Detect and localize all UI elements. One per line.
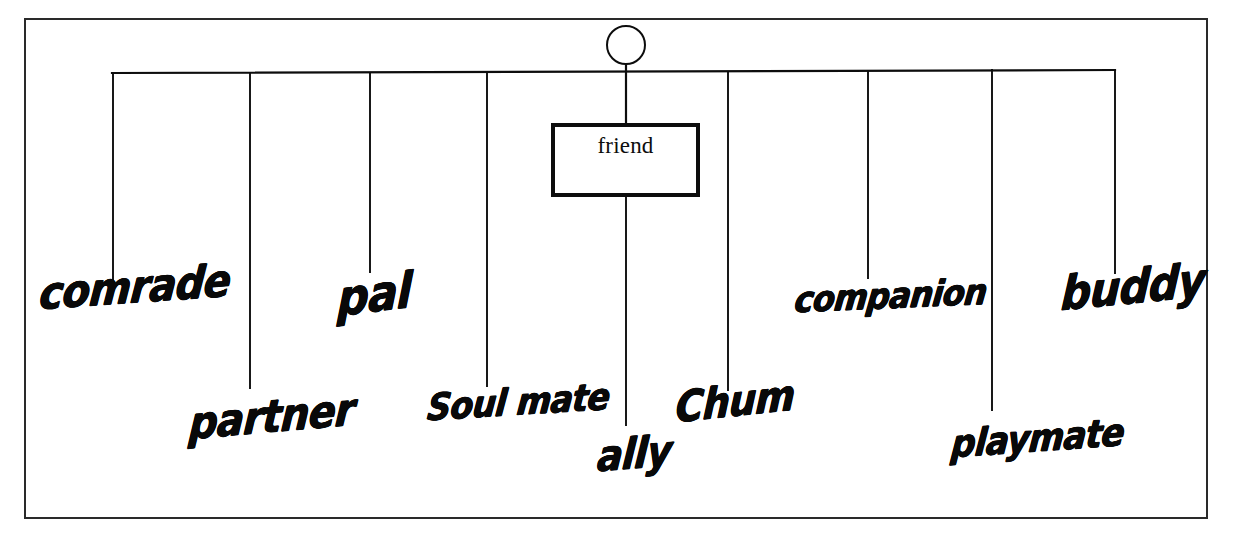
branch-label-buddy-text: buddy (1060, 257, 1207, 318)
branch-label-buddy[interactable]: buddy (1056, 262, 1204, 318)
branch-label-soulmate-text: Soul mate (426, 378, 611, 426)
branch-label-ally-text: ally (596, 429, 673, 478)
branch-label-soulmate[interactable]: Soul mate (424, 382, 608, 426)
branch-label-ally[interactable]: ally (593, 434, 670, 478)
branch-label-pal[interactable]: pal (332, 271, 411, 324)
branch-label-playmate[interactable]: playmate (948, 417, 1123, 463)
horizontal-bus (112, 70, 1115, 73)
branch-label-pal-text: pal (337, 265, 413, 324)
branch-label-companion[interactable]: companion (792, 278, 985, 318)
diagram-canvas: friend comradepartnerpalSoul mateallyChu… (0, 0, 1235, 537)
branch-label-partner-text: partner (188, 386, 356, 446)
root-node-friend[interactable]: friend (551, 123, 700, 197)
branch-label-partner[interactable]: partner (185, 392, 353, 446)
branch-label-comrade-text: comrade (38, 257, 233, 316)
root-node-label: friend (597, 127, 653, 157)
branch-label-companion-text: companion (793, 274, 989, 318)
branch-label-chum[interactable]: Chum (671, 379, 794, 429)
branch-label-playmate-text: playmate (950, 413, 1126, 463)
hub-circle[interactable] (607, 26, 645, 64)
branch-label-chum-text: Chum (675, 374, 796, 429)
branch-label-comrade[interactable]: comrade (35, 263, 228, 316)
